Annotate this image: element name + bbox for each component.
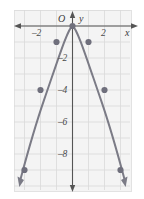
x-axis-label: x — [125, 28, 129, 38]
y-axis — [70, 11, 75, 192]
origin-label: O — [58, 14, 65, 24]
x-tick-2: 2 — [101, 29, 106, 39]
y-tick-minus8: –8 — [58, 150, 67, 160]
parabola-plot — [0, 0, 144, 199]
data-point — [117, 167, 123, 173]
data-point — [21, 167, 27, 173]
y-tick-minus6: –6 — [58, 118, 67, 128]
y-tick-minus2: –2 — [58, 54, 67, 64]
data-point — [37, 87, 43, 93]
data-point — [53, 39, 59, 45]
data-point — [85, 39, 91, 45]
graph-figure: O y x –2 2 –2 –4 –6 –8 — [0, 0, 144, 199]
y-tick-minus4: –4 — [58, 86, 67, 96]
y-axis-label: y — [79, 14, 83, 24]
data-point — [101, 87, 107, 93]
x-tick-minus2: –2 — [32, 29, 41, 39]
data-point — [69, 23, 75, 29]
